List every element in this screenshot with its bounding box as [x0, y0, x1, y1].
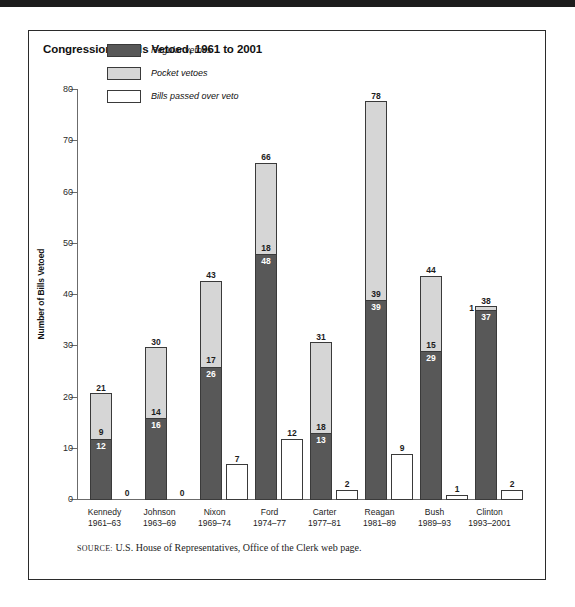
bar-value-override: 7: [227, 455, 247, 464]
bar-total-label: 43: [201, 271, 221, 280]
y-tick-label: 70: [63, 135, 73, 145]
override-bar[interactable]: 12: [281, 439, 303, 500]
override-bar[interactable]: 2: [501, 490, 523, 499]
bar-total-label: 66: [256, 153, 276, 162]
legend-label: Pocket vetoes: [151, 68, 208, 78]
bar-value-pocket: 14: [146, 408, 166, 417]
bar-group: 921120: [83, 89, 138, 499]
page-root: Congressional Bills Vetoed, 1961 to 2001…: [0, 0, 575, 607]
bar-segment-regular[interactable]: 12: [90, 439, 112, 501]
x-axis-label: Kennedy1961–63: [77, 507, 132, 530]
bar-segment-regular[interactable]: 37: [475, 310, 497, 500]
bar-total-label: 78: [366, 92, 386, 101]
bar-total-label: 21: [91, 384, 111, 393]
bar-value-override: 2: [337, 480, 357, 489]
x-axis-label: Nixon1969–74: [187, 507, 242, 530]
bar-value-pocket: 15: [421, 341, 441, 350]
x-label-years: 1969–74: [187, 518, 242, 529]
x-label-years: 1981–89: [352, 518, 407, 529]
stacked-bar[interactable]: 13837: [475, 306, 497, 499]
bar-segment-regular[interactable]: 26: [200, 367, 222, 500]
bar-total-label: 31: [311, 333, 331, 342]
bar-groups: 9211201430160174326718664812183113239783…: [77, 89, 517, 499]
bar-value-override: 12: [282, 429, 302, 438]
bar-segment-pocket[interactable]: 1866: [255, 163, 277, 255]
bar-segment-regular[interactable]: 48: [255, 254, 277, 500]
bar-value-override: 2: [502, 480, 522, 489]
bar-segment-override[interactable]: 12: [281, 439, 303, 501]
override-bar[interactable]: 1: [446, 495, 468, 499]
legend-swatch: [107, 44, 141, 57]
page-edge-artifact: [0, 0, 575, 7]
figure-container: Congressional Bills Vetoed, 1961 to 2001…: [28, 30, 546, 580]
bar-value-regular: 12: [91, 442, 111, 451]
override-bar[interactable]: 9: [391, 454, 413, 499]
bar-segment-regular[interactable]: 16: [145, 418, 167, 500]
bar-value-regular: 29: [421, 354, 441, 363]
bar-segment-pocket[interactable]: 1430: [145, 347, 167, 419]
x-label-years: 1974–77: [242, 518, 297, 529]
bar-group: 1831132: [303, 89, 358, 499]
source-note: SOURCE: U.S. House of Representatives, O…: [77, 542, 362, 553]
bar-segment-regular[interactable]: 13: [310, 433, 332, 500]
stacked-bar[interactable]: 174326: [200, 281, 222, 499]
bar-value-regular: 16: [146, 421, 166, 430]
source-text: U.S. House of Representatives, Office of…: [115, 542, 361, 553]
bar-value-regular: 26: [201, 370, 221, 379]
x-axis-label: Bush1989–93: [407, 507, 462, 530]
bar-segment-pocket[interactable]: 1743: [200, 281, 222, 368]
bar-group: 1544291: [413, 89, 468, 499]
bar-group: 1430160: [138, 89, 193, 499]
x-label-years: 1989–93: [407, 518, 462, 529]
plot-area: Number of Bills Vetoed 01020304050607080…: [77, 89, 517, 499]
bar-value-override: 9: [392, 444, 412, 453]
stacked-bar[interactable]: 397839: [365, 101, 387, 499]
bar-segment-override[interactable]: 2: [336, 490, 358, 500]
bar-segment-override[interactable]: 9: [391, 454, 413, 500]
y-tick-label: 50: [63, 238, 73, 248]
bar-total-label: 30: [146, 338, 166, 347]
bar-segment-override[interactable]: 2: [501, 490, 523, 500]
bar-segment-regular[interactable]: 29: [420, 351, 442, 500]
x-label-years: 1961–63: [77, 518, 132, 529]
y-tick-label: 80: [63, 84, 73, 94]
bar-segment-override[interactable]: 7: [226, 464, 248, 500]
bar-group: 3978399: [358, 89, 413, 499]
x-label-president: Reagan: [352, 507, 407, 518]
x-label-years: 1993–2001: [462, 518, 517, 529]
bar-value-regular: 48: [256, 257, 276, 266]
bar-segment-override[interactable]: 1: [446, 495, 468, 500]
y-axis-title: Number of Bills Vetoed: [36, 249, 46, 340]
legend-swatch: [107, 67, 141, 80]
stacked-bar[interactable]: 186648: [255, 163, 277, 499]
override-bar[interactable]: 2: [336, 490, 358, 499]
bar-segment-pocket[interactable]: 1831: [310, 342, 332, 434]
stacked-bar[interactable]: 92112: [90, 393, 112, 499]
bar-value-regular: 37: [476, 313, 496, 322]
stacked-bar[interactable]: 154429: [420, 276, 442, 500]
bar-value-override: 0: [116, 489, 138, 498]
y-tick-label: 30: [63, 340, 73, 350]
stacked-bar[interactable]: 143016: [145, 347, 167, 499]
y-tick-label: 0: [68, 494, 73, 504]
y-tick-label: 10: [63, 443, 73, 453]
stacked-bar[interactable]: 183113: [310, 342, 332, 499]
x-label-president: Kennedy: [77, 507, 132, 518]
x-label-president: Nixon: [187, 507, 242, 518]
bar-value-pocket: 9: [91, 428, 111, 437]
bar-value-pocket: 18: [256, 244, 276, 253]
legend-item: Regular vetoes: [107, 43, 239, 57]
bar-segment-pocket[interactable]: 1544: [420, 276, 442, 353]
bar-segment-regular[interactable]: 39: [365, 300, 387, 500]
bar-total-label: 38: [476, 297, 496, 306]
y-tick-label: 20: [63, 392, 73, 402]
x-axis-label: Carter1977–81: [297, 507, 352, 530]
scan-artifact: [0, 592, 575, 604]
x-label-president: Carter: [297, 507, 352, 518]
bar-segment-pocket[interactable]: 3978: [365, 101, 387, 301]
x-label-president: Clinton: [462, 507, 517, 518]
override-bar[interactable]: 7: [226, 464, 248, 499]
x-label-years: 1977–81: [297, 518, 352, 529]
bar-segment-pocket[interactable]: 921: [90, 393, 112, 439]
bar-value-pocket: 18: [311, 423, 331, 432]
